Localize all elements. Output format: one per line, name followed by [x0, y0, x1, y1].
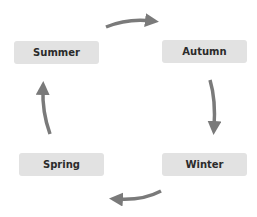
- node-label: Winter: [185, 159, 223, 170]
- arrow-winter-to-spring: [116, 191, 161, 199]
- node-label: Spring: [43, 159, 80, 170]
- arrow-spring-to-summer: [43, 88, 50, 134]
- arrow-autumn-to-winter: [210, 80, 215, 128]
- node-winter: Winter: [162, 153, 247, 176]
- node-label: Autumn: [182, 46, 226, 57]
- node-spring: Spring: [19, 153, 104, 176]
- node-label: Summer: [33, 47, 80, 58]
- node-summer: Summer: [14, 41, 99, 64]
- cycle-arrows: [0, 0, 257, 217]
- node-autumn: Autumn: [162, 40, 247, 63]
- arrow-summer-to-autumn: [106, 20, 152, 27]
